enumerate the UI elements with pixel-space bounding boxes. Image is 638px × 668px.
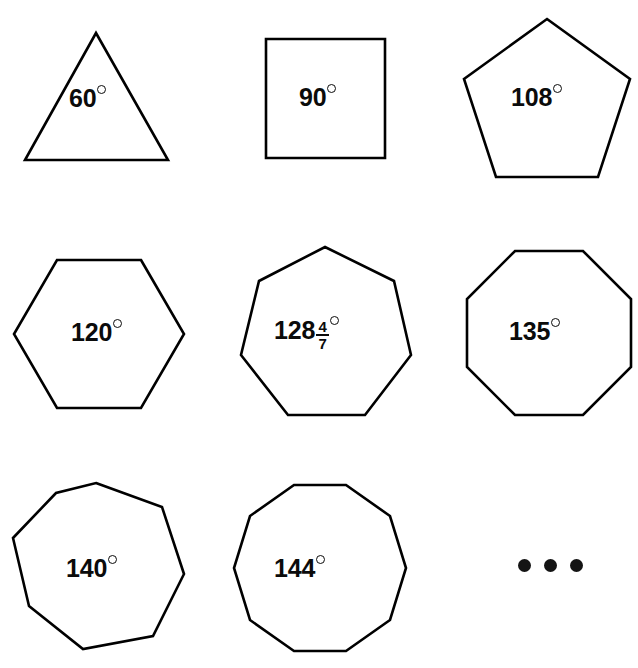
hexagon-angle-label: 120 [71,320,122,345]
fraction-denominator: 7 [318,336,328,351]
nonagon-angle-label: 140 [66,556,117,581]
hexagon-angle-value: 120 [71,320,112,345]
shape-cell-heptagon: 12847 [212,222,424,446]
decagon-angle-value: 144 [274,556,315,581]
ellipsis-dot [544,559,557,572]
shape-cell-nonagon: 140 [0,446,212,668]
triangle-angle-value: 60 [69,86,96,111]
degree-ring-icon [327,84,336,93]
shape-cell-hexagon: 120 [0,222,212,446]
nonagon-angle-value: 140 [66,556,107,581]
octagon-angle-value: 135 [509,319,550,344]
degree-ring-icon [97,85,106,94]
ellipsis-dot [570,559,583,572]
pentagon-shape [424,0,638,222]
square-shape [212,0,424,222]
shape-cell-octagon: 135 [424,222,638,446]
shape-cell-ellipsis [424,446,638,668]
square-angle-value: 90 [299,85,326,110]
square-angle-label: 90 [299,85,336,110]
pentagon-angle-value: 108 [511,85,552,110]
polygon-interior-angles-figure: 60 90 108 120 12847 [0,0,638,668]
triangle-shape [0,0,212,222]
octagon-angle-label: 135 [509,319,560,344]
continuation-ellipsis [518,559,583,572]
heptagon-angle-value: 128 [274,318,315,343]
degree-ring-icon [108,555,117,564]
shape-cell-decagon: 144 [212,446,424,668]
fraction-numerator: 4 [318,319,328,334]
degree-ring-icon [551,318,560,327]
triangle-angle-label: 60 [69,86,106,111]
pentagon-angle-label: 108 [511,85,562,110]
shape-cell-pentagon: 108 [424,0,638,222]
degree-ring-icon [113,319,122,328]
shape-cell-triangle: 60 [0,0,212,222]
decagon-angle-label: 144 [274,556,325,581]
shape-cell-square: 90 [212,0,424,222]
ellipsis-dot [518,559,531,572]
heptagon-angle-fraction: 47 [316,319,329,352]
degree-ring-icon [553,84,562,93]
heptagon-angle-label: 12847 [274,318,339,352]
degree-ring-icon [330,316,339,325]
degree-ring-icon [316,555,325,564]
